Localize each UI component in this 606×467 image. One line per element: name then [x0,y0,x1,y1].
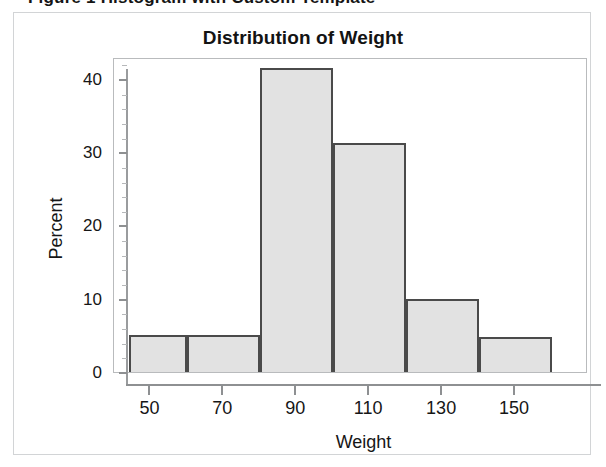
figure-page: Figure 1 Histogram with Custom Template … [0,0,606,467]
y-tick-mark [119,372,127,374]
y-tick-label: 30 [62,144,102,161]
x-tick-mark [221,386,223,395]
histogram-bar [479,337,552,372]
x-tick-label: 130 [411,399,471,417]
y-tick-minor [122,358,127,359]
y-tick-minor [122,270,127,271]
y-axis-title: Percent [46,169,67,289]
x-tick-label: 110 [338,399,398,417]
y-tick-label: 0 [62,364,102,381]
y-tick-minor [122,256,127,257]
y-tick-minor [122,139,127,140]
y-tick-mark [119,152,127,154]
x-tick-mark [148,386,150,395]
x-axis-line [126,384,601,386]
y-tick-minor [122,124,127,125]
chart-title: Distribution of Weight [14,27,592,49]
y-tick-mark [119,225,127,227]
x-tick-label: 90 [265,399,325,417]
y-tick-label: 10 [62,291,102,308]
x-tick-mark [513,386,515,395]
histogram-bar [406,299,479,372]
x-tick-label: 50 [119,399,179,417]
y-tick-minor [122,285,127,286]
figure-caption: Figure 1 Histogram with Custom Template [28,0,376,8]
y-tick-label: 40 [62,71,102,88]
y-tick-minor [122,197,127,198]
y-tick-mark [119,79,127,81]
histogram-bar [333,143,406,372]
x-tick-label: 70 [192,399,252,417]
y-tick-minor [122,168,127,169]
y-axis-line [126,69,128,386]
bars-layer [114,59,586,372]
x-tick-mark [440,386,442,395]
histogram-bar [129,335,187,372]
y-tick-label: 20 [62,217,102,234]
y-tick-minor [122,241,127,242]
figure-border: Distribution of Weight 010203040 5070901… [13,12,591,455]
x-tick-mark [367,386,369,395]
y-tick-mark [119,299,127,301]
x-tick-label: 150 [484,399,544,417]
figure-caption-strip: Figure 1 Histogram with Custom Template [0,0,606,11]
y-tick-minor [122,314,127,315]
y-tick-minor [122,183,127,184]
plot-area [113,58,587,373]
y-tick-minor [122,109,127,110]
x-tick-mark [294,386,296,395]
y-tick-minor [122,95,127,96]
y-tick-minor [122,329,127,330]
y-tick-minor [122,212,127,213]
histogram-bar [187,335,260,372]
y-tick-minor [122,65,127,66]
y-tick-minor [122,344,127,345]
x-axis-title: Weight [126,432,601,453]
histogram-bar [260,68,333,372]
